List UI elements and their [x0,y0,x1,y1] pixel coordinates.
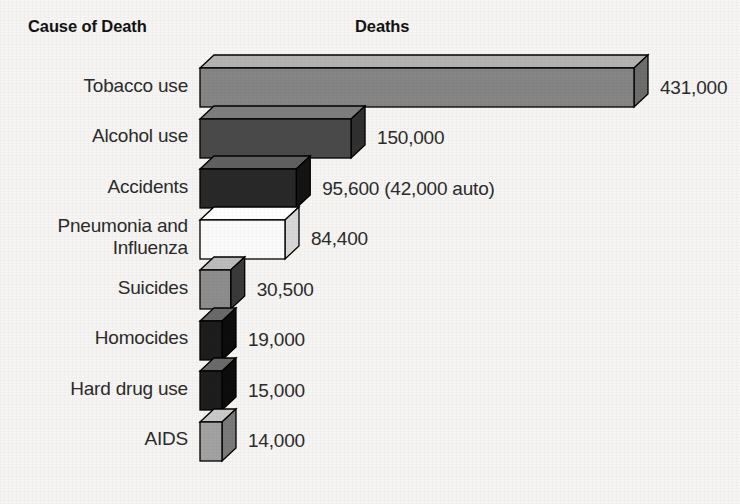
bar-pneumonia-and-influenza [199,206,300,260]
column-header-deaths: Deaths [355,17,409,36]
bar-top-face [200,207,299,220]
bar-front-face [200,169,296,208]
column-header-cause-of-death: Cause of Death [28,17,147,36]
bar-top-face [200,55,648,68]
bar-accidents [199,155,311,209]
bar-top-face [200,156,310,169]
category-label: Suicides [0,277,188,299]
value-label: 30,500 [257,280,314,300]
value-label: 431,000 [660,78,727,98]
value-label: 14,000 [248,431,305,451]
value-label: 15,000 [248,381,305,401]
bar-front-face [200,119,351,158]
category-label: Pneumonia and Influenza [0,215,188,259]
value-label: 84,400 [311,229,368,249]
bar-front-face [200,422,222,461]
category-label: Tobacco use [0,75,188,97]
value-label: 95,600 (42,000 auto) [322,179,494,199]
bar-homocides [199,307,237,361]
value-label: 150,000 [377,128,444,148]
category-label: Homocides [0,327,188,349]
bar-front-face [200,371,222,410]
category-label: AIDS [0,428,188,450]
category-label: Alcohol use [0,125,188,147]
category-label: Accidents [0,176,188,198]
category-label: Hard drug use [0,378,188,400]
bar-front-face [200,68,634,107]
bar-front-face [200,270,231,309]
bar-hard-drug-use [199,357,237,411]
value-label: 19,000 [248,330,305,350]
chart-canvas: Cause of Death Deaths Tobacco useAlcohol… [0,0,740,504]
bar-front-face [200,220,285,259]
bar-suicides [199,256,246,310]
bar-top-face [200,106,365,119]
bar-tobacco-use [199,54,649,108]
bar-alcohol-use [199,105,366,159]
bar-front-face [200,321,222,360]
bar-aids [199,408,237,462]
